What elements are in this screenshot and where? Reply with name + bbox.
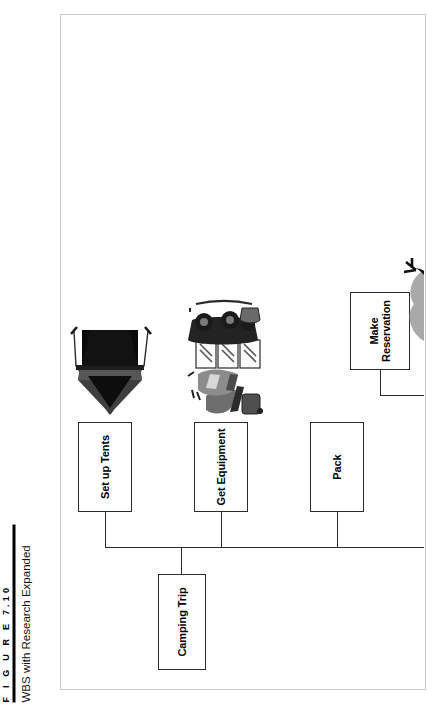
node-set-up-tents[interactable]: Set up Tents bbox=[78, 422, 132, 512]
connector-level3-trunk bbox=[380, 395, 424, 396]
connector-level2-trunk bbox=[105, 547, 424, 548]
node-set-up-tents-label: Set up Tents bbox=[99, 435, 111, 499]
wbs-canvas: Camping Trip Set up Tents Get Equipment … bbox=[62, 16, 424, 688]
node-pack[interactable]: Pack bbox=[310, 422, 364, 512]
equipment-illustration bbox=[180, 294, 266, 420]
connector-to-pack bbox=[337, 512, 338, 548]
node-camping-trip[interactable]: Camping Trip bbox=[158, 574, 206, 670]
figure-title: WBS with Research Expanded bbox=[20, 545, 32, 702]
connector-to-get-equipment bbox=[221, 512, 222, 548]
node-make-reservation-label: Make Reservation bbox=[368, 300, 393, 362]
node-get-equipment[interactable]: Get Equipment bbox=[194, 422, 248, 512]
tent-illustration bbox=[68, 294, 152, 426]
connector-to-make-reservation bbox=[380, 370, 381, 396]
wildlife-illustration bbox=[398, 242, 424, 358]
connector-root-stem bbox=[181, 548, 182, 574]
node-camping-trip-label: Camping Trip bbox=[176, 587, 188, 656]
node-get-equipment-label: Get Equipment bbox=[215, 429, 227, 506]
figure-number-label: F I G U R E 7.10 bbox=[1, 585, 11, 703]
figure-page: F I G U R E 7.10 WBS with Research Expan… bbox=[0, 0, 444, 713]
node-make-reservation-line1: Make bbox=[368, 317, 380, 344]
connector-to-set-up-tents bbox=[105, 512, 106, 548]
caption-rule bbox=[13, 525, 16, 703]
figure-caption-area: F I G U R E 7.10 WBS with Research Expan… bbox=[0, 0, 58, 713]
node-make-reservation-line2: Reservation bbox=[380, 300, 392, 362]
wbs-diagram: Camping Trip Set up Tents Get Equipment … bbox=[62, 16, 424, 688]
node-pack-label: Pack bbox=[331, 454, 343, 479]
